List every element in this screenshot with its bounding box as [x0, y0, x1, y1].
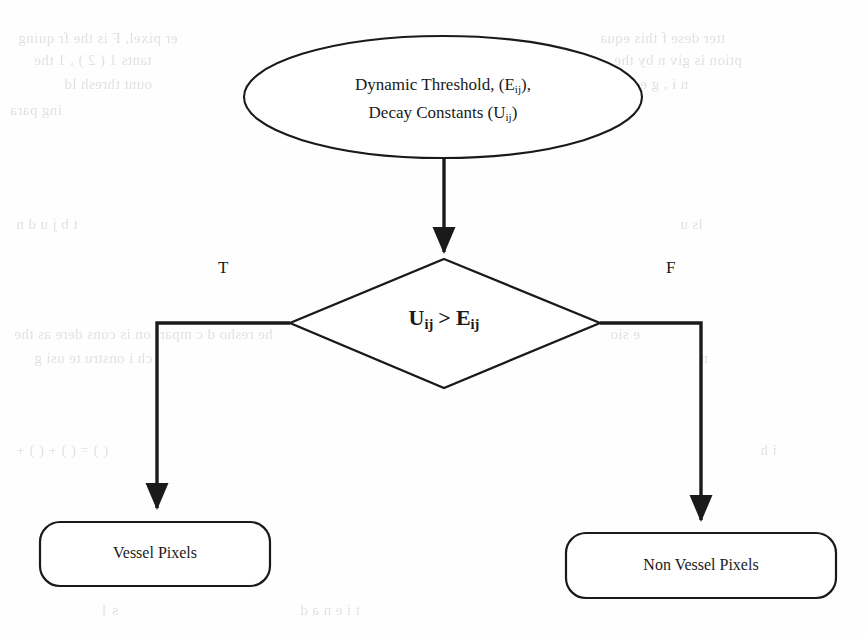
outcome-label-non-vessel-pixels: Non Vessel Pixels — [566, 556, 836, 574]
decision-left-variable: U — [409, 305, 425, 330]
flowchart-canvas: er pixel, F is the fr quing tants 1 ( 2 … — [0, 0, 866, 636]
connector-true-branch — [157, 323, 290, 508]
start-node-line2-suffix: ) — [512, 103, 518, 122]
decision-node-label: Uij>Eij — [344, 305, 544, 333]
decision-operator: > — [433, 305, 456, 330]
outcome-label-vessel-pixels: Vessel Pixels — [40, 544, 270, 562]
start-node-line1-prefix: Dynamic Threshold, (E — [355, 75, 515, 94]
start-node-line2-prefix: Decay Constants (U — [369, 103, 506, 122]
decision-right-subscript: ij — [471, 316, 480, 332]
decision-left-subscript: ij — [424, 316, 433, 332]
decision-right-variable: E — [456, 305, 471, 330]
start-node-label: Dynamic Threshold, (Eij), Decay Constant… — [243, 73, 643, 129]
start-node-line1: Dynamic Threshold, (Eij), — [243, 73, 643, 101]
start-node-line1-suffix: ), — [521, 75, 531, 94]
branch-label-true: T — [218, 258, 228, 278]
branch-label-false: F — [666, 258, 675, 278]
connector-false-branch — [600, 323, 701, 520]
start-node-line2: Decay Constants (Uij) — [243, 101, 643, 129]
